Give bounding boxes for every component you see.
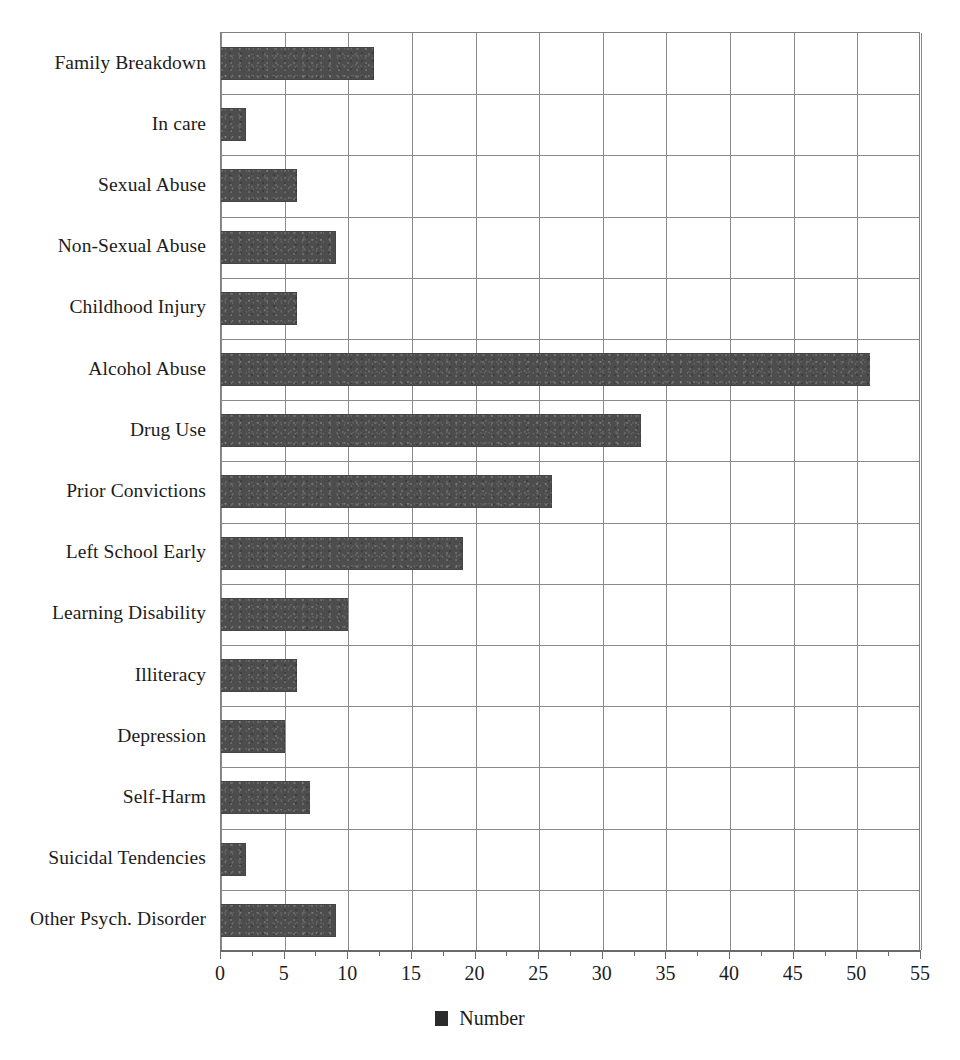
bar-alcohol-abuse xyxy=(221,353,870,386)
category-label-self-harm: Self-Harm xyxy=(0,787,206,807)
x-tick-label-0: 0 xyxy=(190,963,250,983)
category-label-illiteracy: Illiteracy xyxy=(0,665,206,685)
tick-minor-52.5 xyxy=(888,950,889,956)
plot-area xyxy=(220,32,920,950)
bar-row xyxy=(221,584,919,645)
tick-major-25 xyxy=(538,950,539,959)
x-tick-label-55: 55 xyxy=(890,963,950,983)
x-tick-label-15: 15 xyxy=(381,963,441,983)
bar-row xyxy=(221,645,919,706)
tick-major-35 xyxy=(665,950,666,959)
category-label-depression: Depression xyxy=(0,726,206,746)
bar-self-harm xyxy=(221,781,310,814)
bar-childhood-injury xyxy=(221,292,297,325)
tick-major-0 xyxy=(220,950,221,959)
bar-row xyxy=(221,523,919,584)
tick-minor-7.5 xyxy=(315,950,316,956)
legend-swatch-number xyxy=(435,1011,448,1026)
bar-row xyxy=(221,890,919,951)
category-label-non-sexual-abuse: Non-Sexual Abuse xyxy=(0,236,206,256)
x-tick-label-40: 40 xyxy=(699,963,759,983)
bar-sexual-abuse xyxy=(221,169,297,202)
tick-major-55 xyxy=(920,950,921,959)
tick-minor-22.5 xyxy=(506,950,507,956)
category-label-prior-convictions: Prior Convictions xyxy=(0,481,206,501)
category-label-family-breakdown: Family Breakdown xyxy=(0,53,206,73)
tick-minor-17.5 xyxy=(443,950,444,956)
x-tick-label-45: 45 xyxy=(763,963,823,983)
bar-family-breakdown xyxy=(221,47,374,80)
tick-major-40 xyxy=(729,950,730,959)
bar-suicidal-tendencies xyxy=(221,843,246,876)
bar-in-care xyxy=(221,108,246,141)
category-label-drug-use: Drug Use xyxy=(0,420,206,440)
tick-major-10 xyxy=(347,950,348,959)
tick-minor-2.5 xyxy=(252,950,253,956)
bar-drug-use xyxy=(221,414,641,447)
x-tick-label-10: 10 xyxy=(317,963,377,983)
tick-major-50 xyxy=(856,950,857,959)
bar-chart: Family BreakdownIn careSexual AbuseNon-S… xyxy=(0,0,960,1060)
tick-major-45 xyxy=(793,950,794,959)
bar-row xyxy=(221,33,919,94)
legend-label-number: Number xyxy=(459,1008,525,1028)
bar-left-school-early xyxy=(221,537,463,570)
tick-major-5 xyxy=(284,950,285,959)
bar-row xyxy=(221,400,919,461)
bar-row xyxy=(221,217,919,278)
x-tick-label-25: 25 xyxy=(508,963,568,983)
bar-learning-disability xyxy=(221,598,348,631)
x-tick-label-20: 20 xyxy=(445,963,505,983)
tick-major-30 xyxy=(602,950,603,959)
category-label-in-care: In care xyxy=(0,114,206,134)
category-label-sexual-abuse: Sexual Abuse xyxy=(0,175,206,195)
category-label-childhood-injury: Childhood Injury xyxy=(0,297,206,317)
tick-major-20 xyxy=(475,950,476,959)
bar-row xyxy=(221,829,919,890)
bar-row xyxy=(221,461,919,522)
tick-minor-42.5 xyxy=(761,950,762,956)
bar-row xyxy=(221,706,919,767)
bar-row xyxy=(221,278,919,339)
tick-minor-47.5 xyxy=(825,950,826,956)
category-label-learning-disability: Learning Disability xyxy=(0,603,206,623)
gridline-vertical-55 xyxy=(921,33,922,950)
category-label-left-school-early: Left School Early xyxy=(0,542,206,562)
bar-non-sexual-abuse xyxy=(221,231,336,264)
chart-legend: Number xyxy=(0,1008,960,1028)
bar-row xyxy=(221,767,919,828)
tick-minor-12.5 xyxy=(379,950,380,956)
x-tick-label-30: 30 xyxy=(572,963,632,983)
tick-minor-32.5 xyxy=(634,950,635,956)
x-tick-label-50: 50 xyxy=(826,963,886,983)
category-label-suicidal-tendencies: Suicidal Tendencies xyxy=(0,848,206,868)
bar-row xyxy=(221,155,919,216)
tick-minor-27.5 xyxy=(570,950,571,956)
category-label-alcohol-abuse: Alcohol Abuse xyxy=(0,359,206,379)
bar-other-psych-disorder xyxy=(221,904,336,937)
tick-minor-37.5 xyxy=(697,950,698,956)
x-tick-label-5: 5 xyxy=(254,963,314,983)
bar-prior-convictions xyxy=(221,475,552,508)
tick-major-15 xyxy=(411,950,412,959)
x-tick-label-35: 35 xyxy=(635,963,695,983)
bar-row xyxy=(221,94,919,155)
bar-illiteracy xyxy=(221,659,297,692)
bar-row xyxy=(221,339,919,400)
bar-depression xyxy=(221,720,285,753)
category-label-other-psych-disorder: Other Psych. Disorder xyxy=(0,909,206,929)
